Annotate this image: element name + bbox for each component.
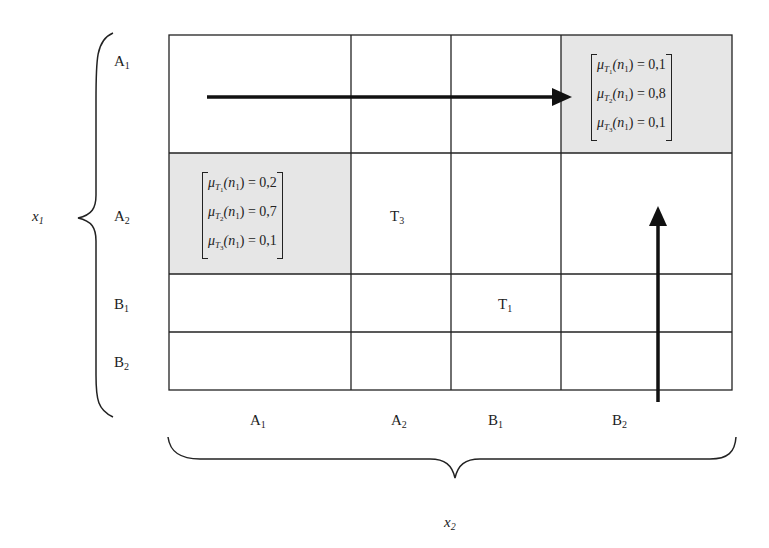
mu-symbol: μ [208,204,215,219]
row-label-b1: B1 [114,296,129,317]
col-letter: A [391,412,402,428]
t-sub: 1 [507,303,512,314]
right-bracket [277,172,283,259]
membership-row: μT2(n1) = 0,7 [208,201,277,230]
mu-symbol: μ [208,175,215,190]
vertical-arrow [649,206,667,402]
row-sub: 1 [125,60,130,71]
arg: (n [224,233,236,248]
value: ) = 0,1 [629,57,666,72]
row-sub: 2 [124,361,129,372]
value: ) = 0,2 [240,175,277,190]
col-letter: A [250,412,261,428]
cell-label-t1: T1 [498,296,512,317]
axis-x2-name: x [444,514,451,530]
col-label-a1: A1 [250,412,266,433]
row-label-b2: B2 [114,354,129,375]
axis-x2-sub: 2 [451,521,456,532]
col-sub: 2 [622,419,627,430]
axis-x1-name: x [32,208,39,224]
t-letter: T [390,208,399,224]
axis-label-x1: x1 [32,208,44,229]
row-label-a1: A1 [114,53,130,74]
bottom-brace [168,437,736,478]
right-bracket [666,54,672,141]
membership-row: μT1(n1) = 0,1 [597,54,666,83]
arg: (n [224,204,236,219]
col-letter: B [488,412,498,428]
value: ) = 0,8 [629,86,666,101]
row-label-a2: A2 [114,208,130,229]
left-brace [78,33,113,417]
cell-label-t3: T3 [390,208,404,229]
horizontal-arrow [207,88,572,106]
row-letter: A [114,53,125,69]
arg: (n [613,86,625,101]
row-letter: B [114,296,124,312]
col-label-b2: B2 [612,412,627,433]
membership-row: μT3(n1) = 0,1 [597,112,666,141]
membership-matrix-left: μT1(n1) = 0,2 μT2(n1) = 0,7 μT3(n1) = 0,… [202,172,283,259]
col-label-b1: B1 [488,412,503,433]
left-bracket [202,172,208,259]
membership-matrix-top-right: μT1(n1) = 0,1 μT2(n1) = 0,8 μT3(n1) = 0,… [591,54,672,141]
t-letter: T [498,296,507,312]
value: ) = 0,1 [240,233,277,248]
row-letter: B [114,354,124,370]
row-sub: 2 [125,215,130,226]
value: ) = 0,1 [629,115,666,130]
col-letter: B [612,412,622,428]
mu-symbol: μ [597,57,604,72]
membership-row: μT1(n1) = 0,2 [208,172,277,201]
mu-symbol: μ [597,115,604,130]
col-label-a2: A2 [391,412,407,433]
axis-x1-sub: 1 [39,215,44,226]
t-sub: 3 [399,215,404,226]
mu-symbol: μ [597,86,604,101]
row-sub: 1 [124,303,129,314]
col-sub: 2 [402,419,407,430]
value: ) = 0,7 [240,204,277,219]
row-letter: A [114,208,125,224]
mu-symbol: μ [208,233,215,248]
arg: (n [613,57,625,72]
col-sub: 1 [261,419,266,430]
membership-row: μT2(n1) = 0,8 [597,83,666,112]
arg: (n [224,175,236,190]
axis-label-x2: x2 [444,514,456,535]
col-sub: 1 [498,419,503,430]
arg: (n [613,115,625,130]
left-bracket [591,54,597,141]
membership-row: μT3(n1) = 0,1 [208,230,277,259]
